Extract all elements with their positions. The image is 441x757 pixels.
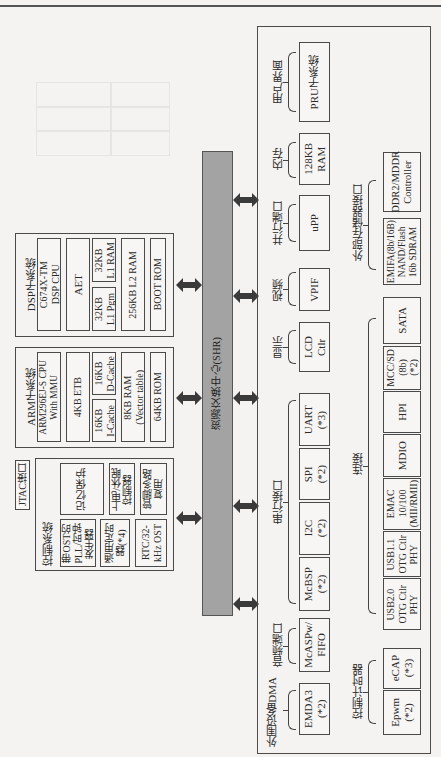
- mmc-sd: MCC/SD (8b) (*2): [383, 346, 421, 390]
- jtag-interface: JTAC接口: [15, 460, 30, 510]
- box-label: 4KB ETB: [72, 377, 84, 417]
- control-title: 控制系统: [42, 522, 55, 566]
- group-label-connectivity: 连接: [352, 453, 365, 475]
- box-label: 128KB RAM: [302, 143, 327, 175]
- box-label: 16KB D-Cache: [93, 356, 116, 392]
- bleed-through-table: [36, 82, 170, 156]
- control-system: 控制系统 带OST的 PLL/时钟 发生器 记忆保护 通用定时 器(*4) 上电…: [35, 458, 174, 571]
- box-label: LCD Ctlr: [302, 336, 327, 358]
- box-label: MCC/SD (8b) (*2): [385, 349, 420, 387]
- epwm: Epwm (*2): [383, 690, 421, 735]
- bleed-through-table-row: [36, 106, 170, 108]
- brace: [368, 318, 376, 614]
- group-label-external-memory: 外部存储器接口: [352, 184, 365, 261]
- box-label: Epwm (*2): [389, 698, 414, 727]
- box-label: EMIFA(8b/16B) NAND/Flash 16b SDRAM: [386, 220, 419, 283]
- box-label: 记忆保护: [76, 467, 88, 511]
- arm-subsystem: ARM子系统 ARM296EJ-S CPU With MMU 4KB ETB 1…: [15, 347, 174, 448]
- uart: UART (*3): [299, 393, 330, 446]
- box-label: McASPw/ FIFO: [302, 622, 327, 668]
- emac: EMAC 10/100 (MII/RMII): [383, 478, 421, 530]
- arm-etb: 4KB ETB: [66, 352, 90, 442]
- pll-clock-generator: 带OST的 PLL/时钟 发生器: [60, 519, 96, 567]
- box-label: RTC/32- kHz OST: [140, 524, 163, 562]
- pru-subsystem: PRU子系统: [299, 42, 330, 122]
- box-label: eCAP (*3): [389, 655, 414, 681]
- box-label: McBSP (*2): [302, 567, 327, 601]
- bleed-through-table-col: [110, 82, 112, 156]
- vpif: VPIF: [299, 268, 330, 311]
- brace: [288, 52, 296, 112]
- double-arrow-icon: [233, 391, 259, 405]
- double-arrow-icon: [233, 289, 259, 303]
- rtc-ost: RTC/32- kHz OST: [135, 519, 167, 567]
- switched-central-resource-bus: 资源交换中心(SHR): [202, 151, 233, 616]
- general-timer: 通用定时 器(*4): [100, 519, 130, 567]
- brace: [288, 400, 296, 604]
- dsp-boot-rom: BOOT ROM: [150, 238, 166, 331]
- double-arrow-icon: [176, 278, 202, 292]
- group-label-peripheral-dma: 外围设备DMA: [266, 677, 279, 747]
- dsp-cpu: C674X-TM DSP CPU: [37, 238, 61, 331]
- dsp-title: DSP子系统: [25, 258, 38, 311]
- box-label: SPI (*2): [302, 465, 327, 483]
- ecap: eCAP (*3): [383, 648, 421, 689]
- double-arrow-icon: [176, 511, 202, 525]
- ram-128kb: 128KB RAM: [299, 133, 330, 185]
- spi: SPI (*2): [299, 448, 330, 500]
- box-label: HPI: [396, 403, 409, 421]
- sata: SATA: [383, 297, 421, 344]
- upp: uPP: [299, 195, 330, 251]
- dsp-l1-pgm: 32KB L1 Pgm: [92, 287, 116, 331]
- dsp-subsystem: DSP子系统 C674X-TM DSP CPU AET 32KB L1 Pgm …: [15, 233, 174, 337]
- box-label: C674X-TM DSP CPU: [38, 261, 61, 308]
- box-label: VPIF: [308, 278, 321, 302]
- double-arrow-icon: [233, 499, 259, 513]
- double-arrow-icon: [176, 391, 202, 405]
- brace: [288, 272, 296, 306]
- i2c: I2C (*2): [299, 502, 330, 555]
- arm-vector-ram: 8KB RAM (Vector table): [121, 352, 145, 442]
- box-label: 管脚多路 复用: [142, 469, 165, 509]
- box-label: BOOT ROM: [152, 258, 164, 310]
- arm-title: ARM子系统: [25, 368, 38, 426]
- bus-label: 资源交换中心(SHR): [211, 337, 223, 430]
- box-label: ARM296EJ-S CPU With MMU: [38, 360, 60, 435]
- brace: [288, 690, 296, 730]
- lcd-controller: LCD Ctlr: [299, 322, 330, 372]
- mcbsp: McBSP (*2): [299, 557, 330, 611]
- arm-rom: 64KB ROM: [150, 352, 166, 442]
- box-label: 32KB L1 Pgm: [93, 293, 116, 325]
- box-label: JTAC接口: [17, 463, 29, 506]
- box-label: 上电/休眠 控制器: [111, 468, 134, 511]
- brace: [288, 628, 296, 664]
- usb11-otg: USB1.1 OTG Ctlr PHY: [383, 531, 421, 577]
- brace: [288, 142, 296, 178]
- double-arrow-icon: [233, 193, 259, 207]
- box-label: UART (*3): [302, 405, 327, 434]
- box-label: PRU子系统: [308, 55, 321, 109]
- dsp-aet: AET: [66, 238, 90, 331]
- box-label: EMAC 10/100 (MII/RMII): [385, 480, 420, 527]
- brace: [288, 330, 296, 364]
- usb20-otg: USB2.0 OTG Ctlr PHY: [383, 578, 421, 630]
- box-label: MDIO: [396, 441, 409, 470]
- box-label: I2C (*2): [302, 519, 327, 537]
- memory-protection: 记忆保护: [60, 463, 104, 515]
- emifa: EMIFA(8b/16B) NAND/Flash 16b SDRAM: [383, 218, 421, 285]
- box-label: 64KB ROM: [152, 372, 164, 421]
- ddr2-controller: DDR2/MDDR Controller: [383, 152, 421, 212]
- power-sleep-controller: 上电/休眠 控制器: [109, 463, 135, 515]
- hpi: HPI: [383, 391, 421, 433]
- double-arrow-icon: [233, 597, 259, 611]
- arm-dcache: 16KB D-Cache: [92, 352, 116, 395]
- arm-cpu: ARM296EJ-S CPU With MMU: [37, 352, 61, 442]
- dsp-l2-ram: 256KB L2 RAM: [121, 238, 145, 331]
- edma3: EMDA3 (*2): [299, 683, 330, 735]
- mcasp-fifo: McASPw/ FIFO: [299, 618, 330, 672]
- box-label: 256KB L2 RAM: [127, 251, 139, 319]
- bleed-through-table-row: [36, 130, 170, 132]
- box-label: USB2.0 OTG Ctlr PHY: [385, 585, 420, 624]
- box-label: uPP: [308, 214, 321, 232]
- pin-mux: 管脚多路 复用: [140, 463, 167, 515]
